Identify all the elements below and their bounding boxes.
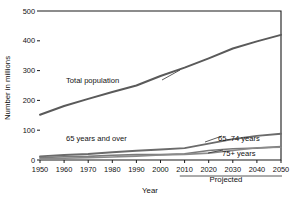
series-label-75plus-years: 75+ years <box>222 149 256 158</box>
x-tick-label: 1950 <box>32 165 48 174</box>
chart-container: 0100200300400500 19501960197019801990200… <box>0 0 293 204</box>
y-tick-label: 500 <box>23 7 35 16</box>
y-tick-label: 400 <box>23 36 35 45</box>
population-line-chart: 0100200300400500 19501960197019801990200… <box>0 0 293 204</box>
projected-label: Projected <box>210 175 243 184</box>
x-tick-label: 1990 <box>128 165 144 174</box>
x-tick-label: 1970 <box>80 165 96 174</box>
y-tick-label: 300 <box>23 66 35 75</box>
x-tick-label: 2000 <box>152 165 168 174</box>
x-tick-label: 2050 <box>273 165 289 174</box>
series-label-total-population: Total population <box>66 76 119 85</box>
series-label-65-and-over: 65 years and over <box>66 134 127 143</box>
y-axis-title: Number in millions <box>3 56 12 120</box>
series-label-65-74-years: 65–74 years <box>218 134 260 143</box>
x-tick-label: 2010 <box>176 165 192 174</box>
x-tick-label: 2030 <box>225 165 241 174</box>
y-tick-label: 100 <box>23 126 35 135</box>
y-tick-label: 200 <box>23 96 35 105</box>
x-axis-title: Year <box>142 186 158 195</box>
x-tick-label: 1980 <box>104 165 120 174</box>
y-tick-label: 0 <box>31 156 35 165</box>
x-tick-label: 1960 <box>56 165 72 174</box>
x-tick-label: 2020 <box>200 165 216 174</box>
x-tick-label: 2040 <box>249 165 265 174</box>
